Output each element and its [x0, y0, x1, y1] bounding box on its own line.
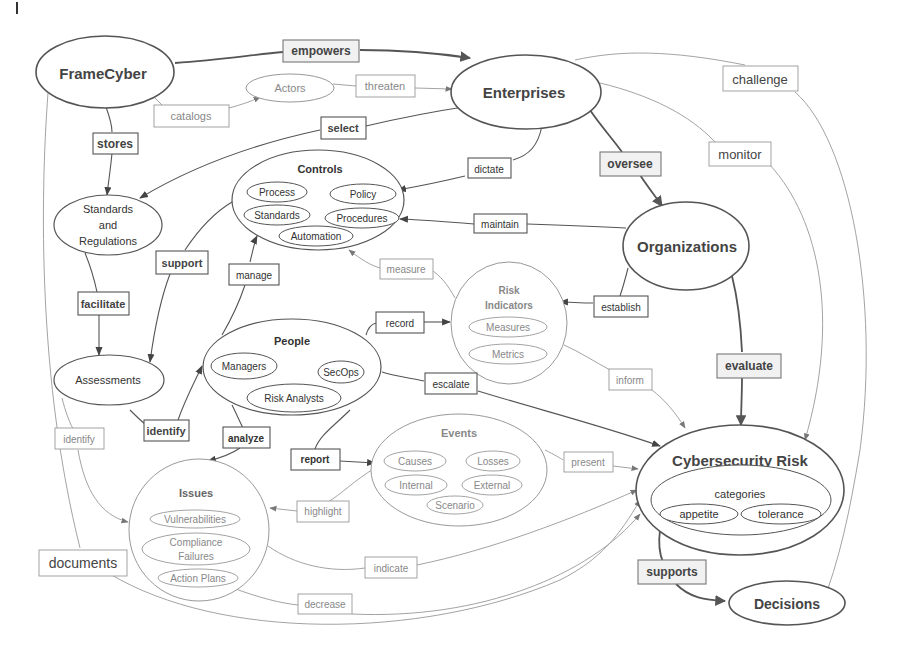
label-supports[interactable]: supports: [638, 560, 706, 584]
risk-indicators-item-metrics[interactable]: Metrics: [469, 344, 547, 364]
edge-analyze-b: [208, 448, 240, 461]
label-oversee-text: oversee: [607, 157, 653, 171]
issues-item-vulnerabilities[interactable]: Vulnerabilities: [150, 510, 240, 528]
label-stores-text: stores: [97, 137, 133, 151]
label-highlight[interactable]: highlight: [297, 501, 349, 522]
events-item-losses[interactable]: Losses: [466, 451, 520, 471]
label-empowers-text: empowers: [291, 44, 351, 58]
label-decrease-text: decrease: [304, 599, 346, 610]
label-supports-text: supports: [646, 565, 698, 579]
controls-item-standards[interactable]: Standards: [244, 205, 310, 225]
category-tolerance[interactable]: tolerance: [741, 504, 821, 524]
label-evaluate-text: evaluate: [725, 359, 773, 373]
label-select[interactable]: select: [321, 117, 366, 139]
events-item-internal[interactable]: Internal: [385, 475, 447, 495]
events-item-causes[interactable]: Causes: [384, 451, 446, 471]
edge-identify-bold-b: [178, 366, 202, 420]
label-identify-bold[interactable]: identify: [144, 420, 189, 441]
edge-monitor-a: [600, 83, 715, 142]
edge-establish-a: [620, 268, 628, 296]
edge-highlight-b: [270, 508, 297, 511]
issues-item-vulnerabilities-label: Vulnerabilities: [164, 514, 226, 525]
edge-present-a: [545, 450, 563, 460]
node-issues[interactable]: Issues Vulnerabilities Compliance Failur…: [129, 459, 269, 601]
label-documents[interactable]: documents: [39, 550, 127, 576]
node-risk-indicators-title-2: Indicators: [485, 300, 533, 311]
category-appetite[interactable]: appetite: [660, 504, 738, 524]
label-establish[interactable]: establish: [594, 296, 648, 317]
issues-item-action-plans[interactable]: Action Plans: [158, 569, 238, 587]
concept-map-diagram: FrameCyber Actors Enterprises Standards …: [0, 0, 897, 658]
label-measure[interactable]: measure: [380, 259, 433, 279]
edge-manage-b: [250, 236, 257, 262]
node-organizations[interactable]: Organizations: [623, 202, 749, 290]
node-standards-regulations[interactable]: Standards and Regulations: [54, 195, 162, 255]
label-empowers[interactable]: empowers: [283, 40, 359, 62]
people-item-managers[interactable]: Managers: [211, 353, 277, 379]
events-item-external[interactable]: External: [462, 475, 522, 495]
label-decrease[interactable]: decrease: [298, 594, 352, 614]
label-analyze[interactable]: analyze: [223, 427, 270, 448]
edge-maintain-b: [400, 219, 474, 224]
label-report[interactable]: report: [291, 449, 340, 470]
people-item-managers-label: Managers: [222, 361, 266, 372]
edge-dictate-a: [513, 126, 542, 160]
label-oversee[interactable]: oversee: [600, 152, 661, 176]
label-stores[interactable]: stores: [93, 133, 138, 154]
edge-identify-light-a: [62, 398, 75, 432]
label-indicate[interactable]: indicate: [365, 557, 417, 578]
controls-item-process[interactable]: Process: [247, 182, 307, 202]
label-record[interactable]: record: [376, 312, 424, 333]
label-establish-text: establish: [601, 302, 640, 313]
node-decisions[interactable]: Decisions: [729, 581, 845, 625]
issues-item-compliance-failures[interactable]: Compliance Failures: [142, 533, 250, 565]
label-threaten[interactable]: threaten: [356, 75, 415, 97]
label-manage[interactable]: manage: [229, 264, 279, 285]
node-assessments[interactable]: Assessments: [54, 355, 164, 405]
node-people[interactable]: People Managers SecOps Risk Analysts: [203, 319, 381, 415]
label-challenge[interactable]: challenge: [723, 66, 798, 91]
node-actors[interactable]: Actors: [246, 74, 334, 102]
label-present[interactable]: present: [564, 452, 613, 472]
events-item-losses-label: Losses: [477, 456, 509, 467]
controls-item-policy[interactable]: Policy: [330, 184, 396, 204]
node-actors-label: Actors: [274, 82, 306, 94]
label-facilitate[interactable]: facilitate: [78, 292, 129, 315]
people-item-risk-analysts-label: Risk Analysts: [264, 393, 323, 404]
category-tolerance-label: tolerance: [758, 508, 803, 520]
node-organizations-label: Organizations: [637, 238, 737, 255]
label-indicate-text: indicate: [374, 563, 409, 574]
risk-indicators-item-measures[interactable]: Measures: [469, 317, 547, 337]
node-enterprises[interactable]: Enterprises: [451, 55, 601, 129]
node-framecyber-label: FrameCyber: [59, 65, 147, 82]
label-monitor[interactable]: monitor: [709, 142, 771, 166]
node-framecyber[interactable]: FrameCyber: [36, 36, 174, 108]
label-identify-light[interactable]: identify: [55, 428, 104, 449]
node-decisions-label: Decisions: [754, 596, 820, 612]
controls-item-automation[interactable]: Automation: [279, 226, 353, 246]
node-events[interactable]: Events Causes Losses Internal External S…: [371, 414, 547, 526]
label-measure-text: measure: [387, 264, 426, 275]
node-assessments-label: Assessments: [75, 374, 141, 386]
edge-identify-light-b: [78, 450, 128, 522]
people-item-risk-analysts[interactable]: Risk Analysts: [247, 384, 341, 412]
label-support[interactable]: support: [156, 251, 208, 274]
events-item-scenario[interactable]: Scenario: [427, 496, 483, 514]
people-item-secops[interactable]: SecOps: [318, 361, 364, 383]
label-dictate[interactable]: dictate: [468, 158, 511, 178]
label-evaluate[interactable]: evaluate: [717, 354, 781, 378]
edge-supports-b: [676, 584, 725, 601]
label-catalogs[interactable]: catalogs: [154, 105, 229, 127]
label-inform[interactable]: inform: [609, 369, 652, 390]
label-maintain[interactable]: maintain: [474, 214, 527, 233]
edge-empowers-a: [175, 52, 283, 63]
label-maintain-text: maintain: [481, 219, 519, 230]
node-risk-indicators[interactable]: Risk Indicators Measures Metrics: [451, 262, 567, 384]
label-escalate[interactable]: escalate: [425, 373, 477, 394]
controls-item-procedures[interactable]: Procedures: [325, 208, 399, 228]
node-controls[interactable]: Controls Process Policy Standards Proced…: [232, 150, 404, 250]
label-catalogs-text: catalogs: [171, 110, 212, 122]
label-monitor-text: monitor: [718, 147, 762, 162]
node-cybersecurity-risk[interactable]: Cybersecurity Risk categories appetite t…: [636, 425, 844, 555]
edge-evaluate-a: [732, 276, 742, 352]
